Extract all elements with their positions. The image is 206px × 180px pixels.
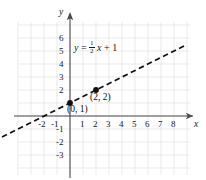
x-tick-7: 7 (158, 120, 163, 129)
equation-lhs: y (74, 43, 78, 53)
equation-plus: + (104, 43, 110, 53)
y-axis (67, 12, 73, 178)
y-tick-4: 4 (59, 60, 64, 69)
x-axis-label: x (194, 120, 198, 130)
y-tick-minus-2: -2 (56, 138, 64, 147)
equation-annotation: y = 1 2 x + 1 (74, 40, 117, 55)
y-tick-minus-3: -3 (56, 151, 64, 160)
equation-constant: 1 (112, 43, 117, 53)
y-tick-2: 2 (59, 86, 64, 95)
y-tick-6: 6 (59, 34, 64, 43)
coordinate-plane (0, 0, 206, 180)
point-label-2-2: (2, 2) (90, 93, 111, 103)
x-tick-1: 1 (80, 120, 85, 129)
equation-fraction: 1 2 (89, 40, 95, 55)
y-tick-5: 5 (59, 47, 64, 56)
equation-equals: = (81, 43, 87, 53)
x-tick-8: 8 (171, 120, 176, 129)
graph-figure: y x 6 5 4 3 2 -1 -2 -3 -2 -1 1 2 3 4 5 6… (0, 0, 206, 180)
fraction-denominator: 2 (89, 47, 95, 55)
x-tick-3: 3 (106, 120, 111, 129)
y-tick-3: 3 (59, 73, 64, 82)
x-tick-minus-2: -2 (38, 120, 46, 129)
x-tick-2: 2 (93, 120, 98, 129)
x-tick-6: 6 (145, 120, 150, 129)
x-tick-minus-1: -1 (51, 120, 59, 129)
point-label-0-1: (0, 1) (67, 105, 88, 115)
x-tick-5: 5 (132, 120, 137, 129)
equation-variable: x (97, 43, 101, 53)
y-axis-label: y (59, 8, 63, 18)
x-tick-4: 4 (119, 120, 124, 129)
fraction-numerator: 1 (89, 40, 95, 47)
